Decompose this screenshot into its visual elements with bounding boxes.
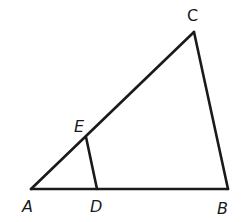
- label-b: B: [217, 199, 228, 218]
- label-c: C: [187, 6, 198, 25]
- label-d: D: [90, 197, 102, 216]
- label-a: A: [21, 197, 33, 216]
- segment-bc: [194, 32, 228, 189]
- segment-de: [86, 137, 97, 189]
- segment-ca: [31, 32, 194, 189]
- label-e: E: [74, 117, 85, 136]
- triangle-diagram: C E A D B: [0, 0, 242, 222]
